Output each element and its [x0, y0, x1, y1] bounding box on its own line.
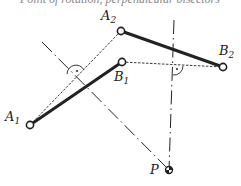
link-A2-B2 [121, 31, 223, 67]
label-B1: B1 [113, 69, 129, 86]
right-angle-B [173, 66, 183, 75]
label-P: P [149, 162, 159, 177]
label-A1: A1 [4, 109, 20, 126]
right-angle-A [67, 65, 84, 74]
bisector-A [42, 42, 169, 170]
joint-B2 [219, 63, 226, 70]
pole-P-icon [166, 167, 173, 174]
bisector-B [169, 20, 174, 170]
rotation-pole-diagram: Point of rotation, perpendicular bisecto… [0, 0, 241, 186]
joint-B1 [118, 58, 125, 65]
chord-A1-A2 [30, 31, 121, 125]
joint-A2 [117, 27, 124, 34]
joint-A1 [26, 121, 33, 128]
top-text-fragment: Point of rotation, perpendicular bisecto… [19, 0, 220, 6]
link-A1-B1 [30, 62, 122, 125]
label-B2: B2 [218, 43, 235, 60]
label-A2: A2 [100, 8, 116, 25]
